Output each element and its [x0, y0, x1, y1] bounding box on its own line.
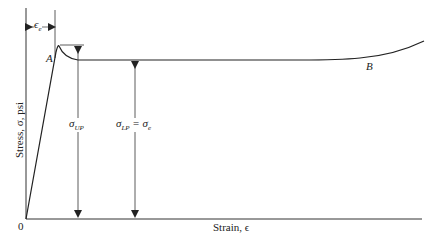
point-b-label: B — [366, 60, 373, 72]
lower-yield-label: σLP = σe — [116, 117, 151, 132]
origin-label: 0 — [18, 220, 24, 232]
stress-strain-diagram — [0, 0, 438, 242]
x-axis-label: Strain, ϵ — [213, 221, 249, 233]
y-axis-label: Stress, σ, psi — [13, 102, 25, 158]
point-a-label: A — [46, 52, 53, 64]
elastic-strain-label: ϵe — [34, 18, 42, 33]
upper-yield-label: σUP — [69, 117, 84, 132]
